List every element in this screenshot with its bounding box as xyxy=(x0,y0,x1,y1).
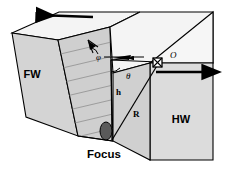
footwall-label: FW xyxy=(23,68,41,80)
focus-marker xyxy=(100,122,112,140)
phi-label: φ xyxy=(96,52,101,62)
distance-label-R: R xyxy=(133,109,140,119)
fault-block-diagram: FW HW Focus O h R θ φ xyxy=(0,0,225,179)
fault-block-illustration: FW HW Focus O h R θ φ xyxy=(0,0,225,179)
hangingwall-label: HW xyxy=(172,113,191,125)
theta-label: θ xyxy=(126,71,131,81)
hangingwall-lower-skirt xyxy=(113,63,150,160)
depth-label-h: h xyxy=(116,87,121,97)
hangingwall-front-face xyxy=(150,63,213,160)
station-label: O xyxy=(170,50,177,60)
focus-label: Focus xyxy=(87,148,121,160)
